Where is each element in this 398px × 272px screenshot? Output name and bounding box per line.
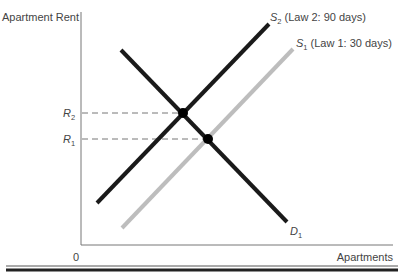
x-axis-label: Apartments (337, 251, 394, 263)
s2-description: (Law 2: 90 days) (285, 11, 366, 23)
s1-subscript: 1 (303, 43, 307, 52)
d1-label: D1 (290, 225, 302, 240)
d1-subscript: 1 (298, 231, 302, 240)
r2-label: R2 (63, 107, 75, 122)
equilibrium-point-r1 (203, 134, 213, 144)
s2-label: S2(Law 2: 90 days) (270, 11, 366, 26)
equilibrium-point-r2 (178, 108, 188, 118)
s1-description: (Law 1: 30 days) (311, 37, 392, 49)
origin-label: 0 (73, 251, 79, 263)
r1-subscript: 1 (71, 139, 75, 148)
s2-subscript: 2 (277, 17, 281, 26)
r1-label: R1 (63, 133, 75, 148)
r2-subscript: 2 (71, 113, 75, 122)
r2-letter: R (63, 107, 71, 119)
d1-letter: D (290, 225, 298, 237)
s1-label: S1(Law 1: 30 days) (296, 37, 392, 52)
supply-demand-diagram: Apartment Rent Apartments 0 R2 R1 S2(Law… (0, 0, 398, 272)
r1-letter: R (63, 133, 71, 145)
y-axis-label: Apartment Rent (2, 11, 79, 23)
